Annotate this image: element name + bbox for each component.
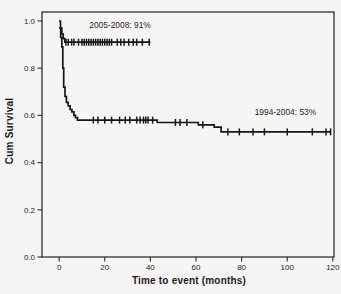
plot-area: 0204060801001200.00.20.40.60.81.02005-20… bbox=[0, 0, 341, 294]
x-axis-title: Time to event (months) bbox=[132, 275, 246, 286]
x-tick-label: 40 bbox=[146, 263, 155, 272]
x-tick-label: 120 bbox=[326, 263, 340, 272]
series-label-2005-2008: 2005-2008: 91% bbox=[89, 20, 151, 30]
y-tick-label: 1.0 bbox=[24, 17, 36, 26]
y-tick-label: 0.6 bbox=[24, 111, 36, 120]
y-tick-label: 0.8 bbox=[24, 64, 36, 73]
x-tick-label: 80 bbox=[237, 263, 246, 272]
x-tick-label: 100 bbox=[281, 263, 295, 272]
plot-frame bbox=[42, 12, 334, 257]
y-tick-label: 0.2 bbox=[24, 206, 36, 215]
x-tick-label: 20 bbox=[100, 263, 109, 272]
x-tick-label: 0 bbox=[57, 263, 62, 272]
survival-chart: Cum Survival 0204060801001200.00.20.40.6… bbox=[0, 0, 341, 294]
y-tick-label: 0.0 bbox=[24, 253, 36, 262]
y-tick-label: 0.4 bbox=[24, 158, 36, 167]
series-label-1994-2004: 1994-2004: 53% bbox=[255, 107, 317, 117]
x-tick-label: 60 bbox=[192, 263, 201, 272]
